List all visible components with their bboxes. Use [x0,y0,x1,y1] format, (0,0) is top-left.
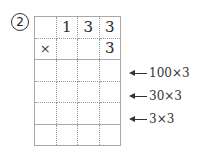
multiplication-grid: 1 3 3 × 3 [34,16,121,146]
answer-cell[interactable] [78,124,100,146]
annotation-30x3: 30×3 [129,89,182,103]
grid-row-multiplicand: 1 3 3 [35,17,121,39]
grid-cell: 3 [78,17,100,39]
grid-cell [78,38,100,60]
grid-row-total [35,124,121,146]
annotation-text: 30×3 [149,89,182,103]
grid-row-partial-3 [35,103,121,125]
answer-cell[interactable] [99,124,121,146]
answer-cell[interactable] [56,103,78,125]
annotation-100x3: 100×3 [129,66,190,80]
problem-number: 2 [11,13,29,31]
times-sign: × [35,38,57,60]
answer-cell[interactable] [78,60,100,82]
grid-cell: 3 [99,17,121,39]
grid-row-partial-1 [35,60,121,82]
answer-cell[interactable] [56,81,78,103]
annotation-text: 3×3 [149,112,174,126]
grid-cell [35,17,57,39]
answer-cell[interactable] [78,103,100,125]
left-arrow-icon [129,91,147,101]
left-arrow-icon [129,114,147,124]
answer-cell[interactable] [78,81,100,103]
answer-cell[interactable] [99,81,121,103]
left-arrow-icon [129,68,147,78]
annotation-3x3: 3×3 [129,112,174,126]
answer-cell[interactable] [35,60,57,82]
answer-cell[interactable] [99,60,121,82]
answer-cell[interactable] [99,103,121,125]
answer-cell[interactable] [56,60,78,82]
answer-cell[interactable] [35,81,57,103]
answer-cell[interactable] [35,124,57,146]
grid-row-multiplier: × 3 [35,38,121,60]
answer-cell[interactable] [35,103,57,125]
answer-cell[interactable] [56,124,78,146]
grid-row-partial-2 [35,81,121,103]
grid-cell: 1 [56,17,78,39]
annotation-text: 100×3 [149,66,190,80]
grid-cell: 3 [99,38,121,60]
grid-cell [56,38,78,60]
